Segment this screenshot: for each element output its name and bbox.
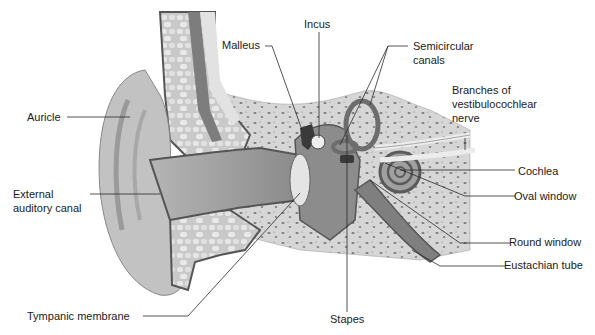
label-external-auditory-canal-line2: auditory canal bbox=[13, 202, 82, 215]
label-malleus: Malleus bbox=[222, 39, 260, 52]
lower-tissue bbox=[170, 210, 260, 290]
label-stapes: Stapes bbox=[330, 313, 364, 326]
tissue-column bbox=[160, 12, 250, 170]
label-semicircular-canals-line1: Semicircular bbox=[413, 40, 474, 53]
ear-diagram: Auricle External auditory canal Tympanic… bbox=[0, 0, 595, 335]
label-incus: Incus bbox=[304, 18, 330, 31]
label-nerve-line1: Branches of bbox=[452, 84, 511, 97]
label-eustachian-tube: Eustachian tube bbox=[504, 259, 583, 272]
label-oval-window: Oval window bbox=[514, 190, 576, 203]
label-nerve-line3: nerve bbox=[452, 112, 480, 125]
label-nerve-line2: vestibulocochlear bbox=[452, 98, 537, 111]
label-semicircular-canals-line2: canals bbox=[413, 54, 445, 67]
label-cochlea: Cochlea bbox=[518, 165, 558, 178]
label-round-window: Round window bbox=[509, 236, 581, 249]
label-tympanic-membrane: Tympanic membrane bbox=[27, 310, 130, 323]
ear-illustration bbox=[0, 0, 595, 335]
label-external-auditory-canal-line1: External bbox=[13, 188, 53, 201]
label-auricle: Auricle bbox=[27, 111, 61, 124]
